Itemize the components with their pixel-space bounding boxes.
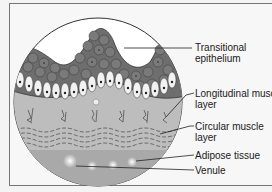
label-circular-muscle: Circular muscle layer — [195, 121, 264, 143]
label-longitudinal-muscle: Longitudinal muscle layer — [195, 88, 272, 110]
label-adipose-tissue: Adipose tissue — [195, 150, 260, 161]
label-venule: Venule — [195, 165, 226, 176]
label-transitional-epithelium: Transitional epithelium — [195, 42, 246, 64]
